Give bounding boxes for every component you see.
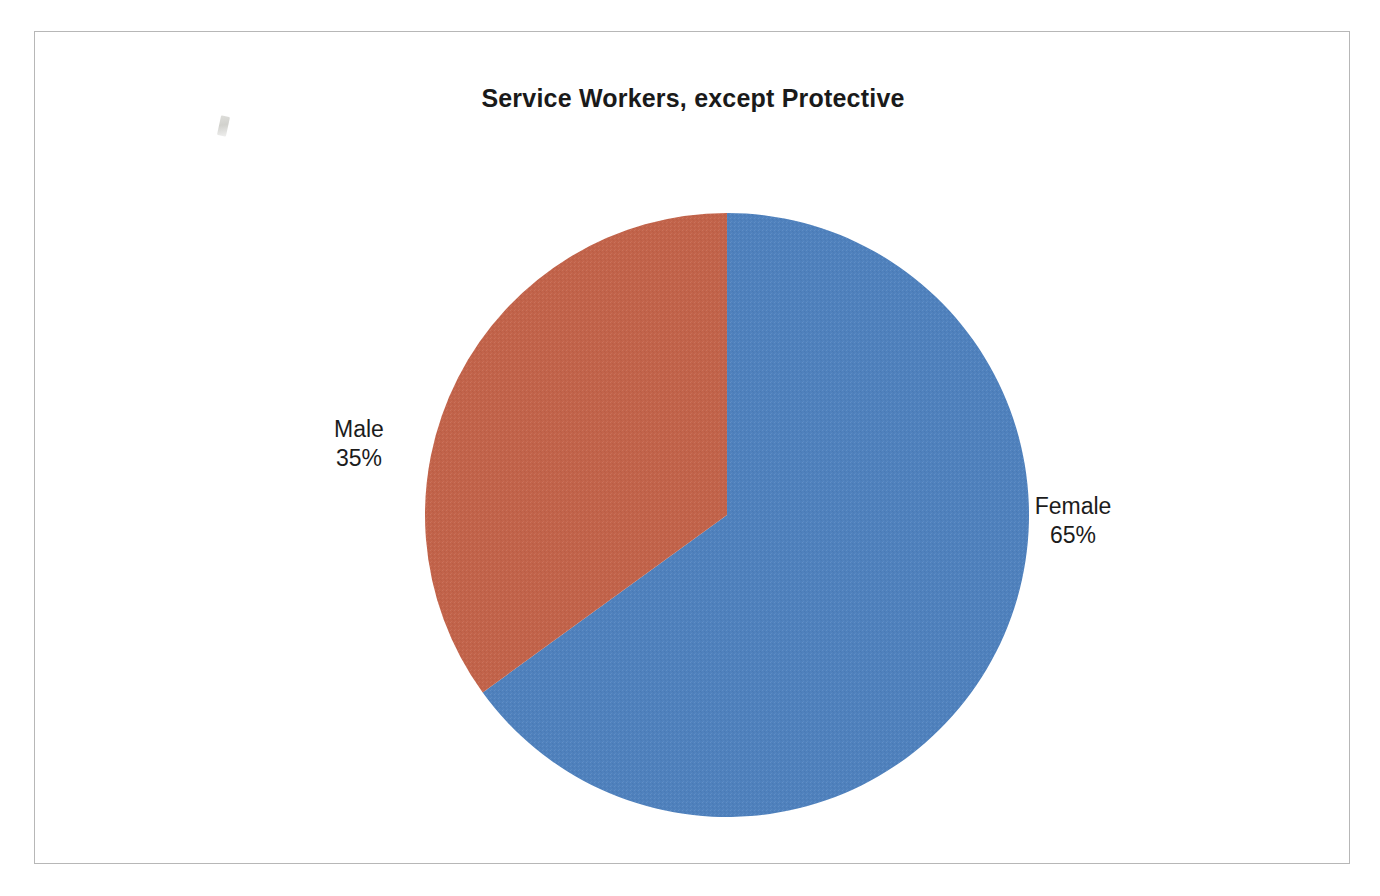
pie-label-male-value: 35% — [303, 444, 415, 473]
pie-label-male: Male 35% — [303, 415, 415, 473]
pie-texture-overlay — [425, 213, 1029, 817]
pie-label-male-name: Male — [303, 415, 415, 444]
pie-label-female-value: 65% — [1003, 521, 1143, 550]
chart-frame: Service Workers, except Protective — [34, 31, 1350, 864]
pie-chart — [362, 150, 1092, 880]
pie-label-female-name: Female — [1003, 492, 1143, 521]
pie-label-female: Female 65% — [1003, 492, 1143, 550]
plot-area: Male 35% Female 65% — [35, 32, 1351, 865]
page-canvas: Service Workers, except Protective — [0, 0, 1380, 896]
